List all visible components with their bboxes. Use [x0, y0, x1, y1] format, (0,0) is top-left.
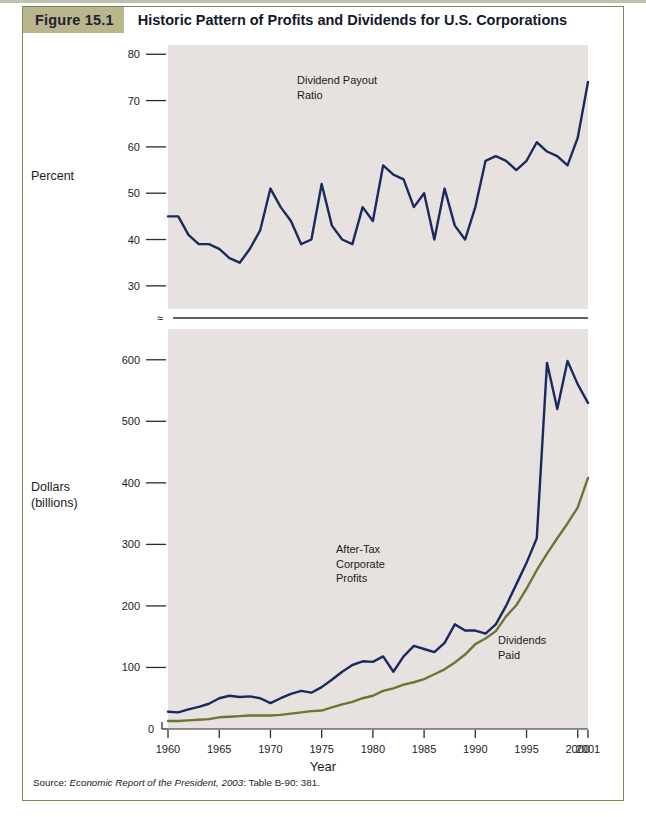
bottom-y-tick-label: 500 [122, 415, 140, 427]
x-axis-ticks: 1960196519701975198019851990199520002001 [156, 730, 600, 755]
y-axis-label-percent: Percent [31, 169, 74, 185]
top-axis-ticks: 304050607080 [128, 48, 166, 292]
axis-break-symbol: ≈ [157, 312, 163, 324]
top-y-tick-label: 80 [128, 48, 140, 60]
figure-frame: Figure 15.1 Historic Pattern of Profits … [22, 6, 624, 801]
top-y-tick-label: 30 [128, 280, 140, 292]
bottom-y-tick-label: 300 [122, 538, 140, 550]
top-y-tick-label: 70 [128, 95, 140, 107]
bottom-y-tick-label: 100 [122, 661, 140, 673]
annotation-after-tax-corporate-profits: After-Tax Corporate Profits [336, 542, 385, 586]
x-axis-title: Year [23, 759, 623, 774]
x-tick-label: 1995 [514, 743, 538, 755]
x-tick-label: 1970 [258, 743, 282, 755]
figure-title-bar: Figure 15.1 Historic Pattern of Profits … [23, 7, 623, 33]
top-plot-background [168, 45, 588, 309]
bottom-y-tick-label: 400 [122, 477, 140, 489]
y-axis-label-dollars-line2: (billions) [31, 496, 78, 510]
top-y-tick-label: 40 [128, 234, 140, 246]
source-note: Source: Economic Report of the President… [33, 777, 320, 788]
source-reference: Economic Report of the President, 2003 [70, 777, 244, 788]
annotation-dividend-payout-ratio: Dividend Payout Ratio [297, 73, 377, 102]
x-tick-label: 1960 [156, 743, 180, 755]
chart-stage: 304050607080 0100200300400500600 1960196… [23, 33, 623, 773]
bottom-axis-ticks: 0100200300400500600 [122, 354, 168, 735]
figure-title: Historic Pattern of Profits and Dividend… [124, 12, 567, 28]
x-tick-label: 2001 [576, 743, 600, 755]
bottom-y-tick-label: 0 [148, 723, 154, 735]
top-y-tick-label: 60 [128, 141, 140, 153]
page-top-rule [0, 0, 646, 3]
x-tick-label: 1990 [463, 743, 487, 755]
bottom-y-tick-label: 200 [122, 600, 140, 612]
x-tick-label: 1980 [361, 743, 385, 755]
source-tail: : Table B-90: 381. [243, 777, 320, 788]
x-tick-label: 1975 [309, 743, 333, 755]
figure-number-tag: Figure 15.1 [23, 7, 124, 33]
bottom-y-tick-label: 600 [122, 354, 140, 366]
x-tick-label: 1985 [412, 743, 436, 755]
bottom-plot-background [168, 329, 588, 729]
y-axis-label-dollars-line1: Dollars [31, 480, 70, 494]
top-y-tick-label: 50 [128, 187, 140, 199]
source-label: Source: [33, 777, 70, 788]
annotation-dividends-paid: Dividends Paid [498, 633, 546, 662]
x-tick-label: 1965 [207, 743, 231, 755]
y-axis-label-dollars: Dollars (billions) [31, 480, 78, 511]
